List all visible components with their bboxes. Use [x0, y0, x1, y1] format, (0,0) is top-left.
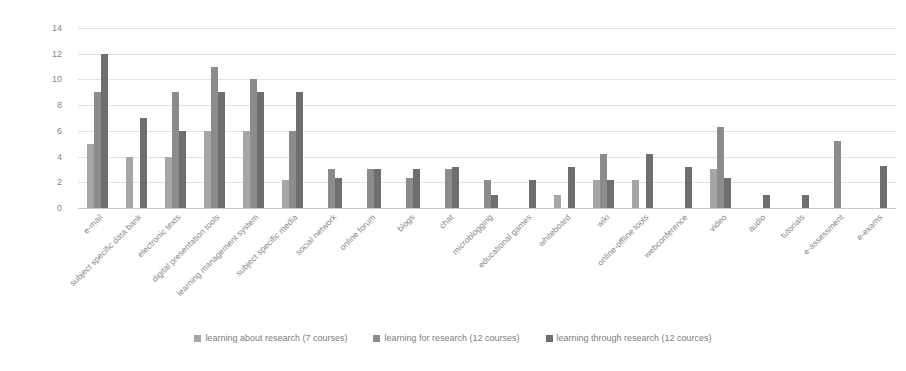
chart-legend: learning about research (7 courses)learn…	[0, 333, 906, 343]
bar	[413, 169, 420, 208]
legend-label: learning for research (12 courses)	[384, 333, 519, 343]
bar	[140, 118, 147, 208]
x-tick-label-text: chat	[438, 213, 456, 231]
legend-item[interactable]: learning about research (7 courses)	[194, 333, 347, 343]
bar	[600, 154, 607, 208]
x-tick-label-text: video	[708, 213, 729, 234]
bar	[296, 92, 303, 208]
bar	[445, 169, 452, 208]
bar	[717, 127, 724, 208]
x-tick-label-text: subject specific data bank	[69, 213, 144, 288]
bar	[257, 92, 264, 208]
legend-item[interactable]: learning through research (12 cources)	[546, 333, 712, 343]
bar-group	[438, 28, 459, 208]
legend-swatch-icon	[194, 335, 201, 342]
x-tick-label-text: e-exams	[855, 213, 884, 242]
bar-group	[632, 28, 653, 208]
x-tick-label-text: blogs	[396, 213, 417, 234]
bar	[126, 157, 133, 208]
bar-chart: 02468101214 e-mailsubject specific data …	[0, 0, 906, 371]
x-tick-label-text: whiteboard	[537, 213, 573, 249]
bar	[289, 131, 296, 208]
y-tick-label: 12	[52, 49, 62, 58]
x-axis-labels: e-mailsubject specific data bankelectron…	[78, 210, 896, 320]
plot-area	[78, 28, 896, 208]
bar	[452, 167, 459, 208]
x-tick-label-text: digital presentation tools	[151, 213, 222, 284]
y-tick-label: 8	[57, 101, 62, 110]
x-tick-label-text: e-assessment	[801, 213, 845, 257]
bar	[94, 92, 101, 208]
y-tick-label: 4	[57, 152, 62, 161]
bars-layer	[78, 28, 896, 208]
bar	[218, 92, 225, 208]
x-tick-label-text: audio	[746, 213, 767, 234]
bar-group	[126, 28, 147, 208]
bar-group	[749, 28, 770, 208]
bar	[646, 154, 653, 208]
x-tick-label-text: social network	[294, 213, 338, 257]
bar-group	[477, 28, 498, 208]
bar	[834, 141, 841, 208]
legend-item[interactable]: learning for research (12 courses)	[373, 333, 519, 343]
bar	[880, 166, 887, 208]
bar-group	[87, 28, 108, 208]
bar-group	[827, 28, 848, 208]
bar	[172, 92, 179, 208]
y-tick-label: 0	[57, 204, 62, 213]
bar	[632, 180, 639, 208]
bar	[484, 180, 491, 208]
legend-label: learning about research (7 courses)	[205, 333, 347, 343]
legend-swatch-icon	[373, 335, 380, 342]
y-tick-label: 14	[52, 24, 62, 33]
y-tick-label: 2	[57, 178, 62, 187]
y-tick-label: 10	[52, 75, 62, 84]
y-tick-label: 6	[57, 126, 62, 135]
legend-swatch-icon	[546, 335, 553, 342]
bar	[101, 54, 108, 208]
legend-label: learning through research (12 cources)	[557, 333, 712, 343]
bar-group	[788, 28, 809, 208]
y-axis-labels: 02468101214	[0, 28, 70, 208]
x-tick-label-text: wiki	[595, 213, 611, 229]
bar	[87, 144, 94, 208]
x-tick-label-text: online forum	[338, 213, 377, 252]
x-tick-label-text: e-mail	[82, 213, 105, 236]
x-tick-label-text: tutorials	[779, 213, 806, 240]
